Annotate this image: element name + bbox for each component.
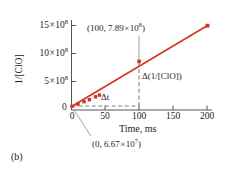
y-tick-label-5: 5×108 xyxy=(22,77,68,87)
x-tick-label-0: 0 xyxy=(63,112,81,122)
x-tick-label-50: 50 xyxy=(96,112,114,122)
y-axis-title: 1/[ClO] xyxy=(14,54,24,84)
data-point xyxy=(137,60,141,64)
x-tick-label-100: 100 xyxy=(128,112,150,122)
regression-line xyxy=(72,26,208,107)
data-point xyxy=(70,105,73,108)
x-tick-label-150: 150 xyxy=(162,112,184,122)
annotation-intercept: (0, 6.67×107) xyxy=(92,140,141,149)
annotation-delta-y: Δ(1/[ClO]) xyxy=(142,72,182,81)
x-tick-label-200: 200 xyxy=(196,112,218,122)
annotation-delta-t: Δt xyxy=(101,93,109,102)
figure-panel-b: 15×108 10×108 5×108 0 0 50 100 150 200 T… xyxy=(0,0,226,171)
y-tick-label-10: 10×108 xyxy=(22,49,68,59)
data-point xyxy=(206,24,210,28)
annotation-point-100: (100, 7.89×108) xyxy=(87,24,145,33)
y-tick-label-15: 15×108 xyxy=(22,21,68,31)
panel-label: (b) xyxy=(11,152,23,162)
data-point xyxy=(88,98,91,101)
data-point xyxy=(82,100,85,103)
data-point xyxy=(76,102,79,105)
x-axis-title: Time, ms xyxy=(119,124,156,134)
data-point xyxy=(94,95,97,98)
